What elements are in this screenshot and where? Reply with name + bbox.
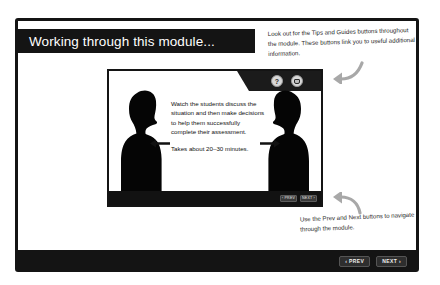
tips-button[interactable]: ? [271, 75, 283, 87]
next-button[interactable]: NEXT › [376, 256, 407, 267]
module-next-button[interactable]: NEXT › [300, 195, 317, 202]
question-mark-icon: ? [275, 78, 279, 85]
module-footer-bar: ‹ PREV NEXT › [109, 191, 321, 205]
arrow-left-icon [150, 139, 170, 148]
module-paragraph-2: Takes about 20–30 minutes. [171, 144, 265, 153]
arrow-right-icon [260, 139, 280, 148]
module-body-copy: Watch the students discuss the situation… [171, 99, 265, 153]
curved-arrow-up-left-icon-2 [330, 192, 364, 216]
slide-title-bar: Working through this module... [15, 29, 255, 53]
page-title: Working through this module... [29, 34, 215, 49]
prev-button[interactable]: ‹ PREV [339, 256, 370, 267]
module-screenshot: ? Watch the students discuss the situati… [107, 69, 323, 207]
annotation-tips-guides-text: Look out for the Tips and Guides buttons… [268, 25, 419, 59]
player-bottom-bar: ‹ PREV NEXT › [15, 250, 419, 272]
guides-button[interactable] [291, 75, 303, 87]
curved-arrow-up-left-icon [330, 60, 364, 84]
annotation-tips-guides: Look out for the Tips and Guides buttons… [268, 25, 419, 59]
module-prev-button[interactable]: ‹ PREV [280, 195, 297, 202]
module-paragraph-1: Watch the students discuss the situation… [171, 99, 265, 137]
guide-book-icon [294, 79, 300, 84]
